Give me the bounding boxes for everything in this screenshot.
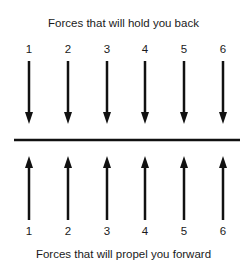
up-arrow-icon <box>25 156 33 220</box>
up-arrow-icon <box>180 156 188 220</box>
down-arrow-icon <box>103 61 111 124</box>
down-arrow-icon <box>141 61 149 124</box>
up-arrow-icon <box>219 156 227 220</box>
bottom-number-2: 2 <box>58 225 78 237</box>
up-arrow-icon <box>103 156 111 220</box>
up-arrow-icon <box>64 156 72 220</box>
bottom-number-3: 3 <box>97 225 117 237</box>
down-arrow-icon <box>180 61 188 124</box>
propelling-forces-title: Forces that will propel you forward <box>0 248 247 260</box>
down-arrow-icon <box>25 61 33 124</box>
down-arrow-icon <box>219 61 227 124</box>
bottom-number-5: 5 <box>174 225 194 237</box>
bottom-number-4: 4 <box>135 225 155 237</box>
bottom-number-6: 6 <box>213 225 233 237</box>
down-arrow-icon <box>64 61 72 124</box>
bottom-number-1: 1 <box>19 225 39 237</box>
up-arrow-icon <box>141 156 149 220</box>
